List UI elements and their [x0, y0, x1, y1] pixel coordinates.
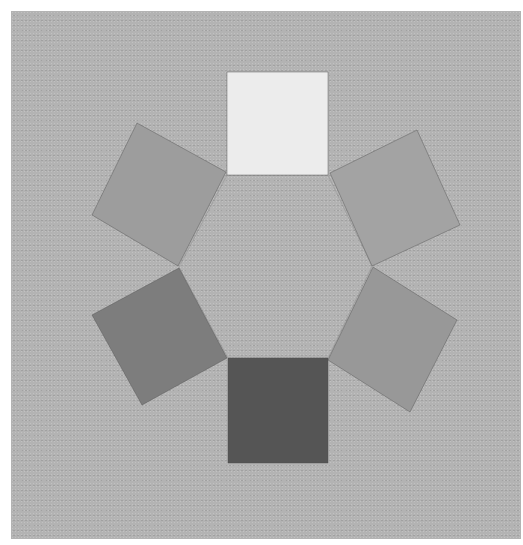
swatch-lower-right: [328, 267, 457, 412]
value-wheel-diagram: [0, 0, 523, 545]
swatch-upper-left: [92, 123, 226, 266]
swatch-bottom-darkest: [228, 358, 328, 463]
swatch-top-lightest: [227, 72, 328, 175]
swatch-upper-right: [330, 130, 460, 266]
swatch-lower-left: [92, 268, 227, 405]
